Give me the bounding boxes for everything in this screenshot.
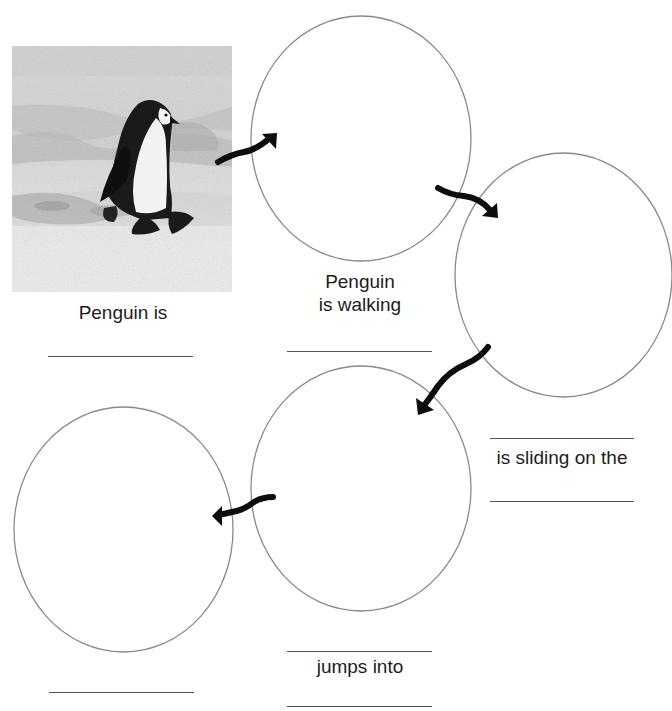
stage-3-circle [455, 153, 672, 397]
stage-3-label: is sliding on the [486, 447, 638, 469]
stage-1-label: Penguin is [60, 302, 186, 324]
stage-4-blank-line-1[interactable] [287, 651, 432, 652]
curved-arrow-left-icon [212, 497, 273, 526]
stage-1-blank-line[interactable] [48, 356, 193, 357]
stage-4-blank-line-2[interactable] [287, 706, 432, 707]
stage-2-circle [251, 16, 471, 261]
stage-2-label-line1: Penguin [300, 271, 420, 293]
curved-arrow-right-icon [218, 133, 277, 162]
stage-4-circle [251, 366, 471, 611]
stage-5-blank-line[interactable] [49, 692, 194, 693]
stage-2-blank-line[interactable] [287, 351, 432, 352]
stage-4-label: jumps into [300, 656, 420, 678]
stage-2-label-line2: is walking [300, 294, 420, 316]
stage-3-blank-line-1[interactable] [490, 438, 634, 439]
curved-arrow-down-right-icon [438, 188, 498, 218]
curved-arrow-down-left-icon [416, 347, 488, 415]
stage-5-circle [14, 407, 233, 652]
stage-3-blank-line-2[interactable] [490, 501, 634, 502]
